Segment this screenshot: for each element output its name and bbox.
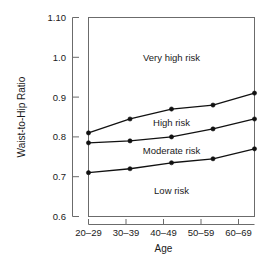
data-point-s3-3 bbox=[169, 161, 173, 165]
data-point-s3-5 bbox=[252, 147, 256, 151]
series-group bbox=[86, 91, 256, 175]
x-tick-label-40-49: 40–49 bbox=[150, 227, 176, 238]
y-tick-label-060: 0.6 bbox=[53, 211, 66, 222]
data-point-s2-2 bbox=[128, 139, 132, 143]
x-axis-title: Age bbox=[155, 243, 173, 254]
data-point-s3-2 bbox=[128, 167, 132, 171]
x-tick-label-50-59: 50–59 bbox=[188, 227, 214, 238]
y-tick-label-090: 0.9 bbox=[53, 92, 66, 103]
x-tick-label-60-69: 60–69 bbox=[225, 227, 251, 238]
data-point-s1-1 bbox=[86, 131, 90, 135]
region-label-3: Moderate risk bbox=[143, 145, 201, 156]
region-label-4: Low risk bbox=[154, 185, 189, 196]
data-point-s2-3 bbox=[169, 135, 173, 139]
region-label-1: Very high risk bbox=[143, 52, 200, 63]
y-tick-label-080: 0.8 bbox=[53, 131, 66, 142]
waist-to-hip-ratio-risk-chart: 1.10 1.0 0.9 0.8 0.7 0.6 Waist-to-Hip Ra… bbox=[0, 0, 275, 259]
y-tick-label-110: 1.10 bbox=[48, 12, 67, 23]
data-point-s2-4 bbox=[211, 127, 215, 131]
y-tick-label-100: 1.0 bbox=[53, 52, 66, 63]
data-point-s1-4 bbox=[211, 103, 215, 107]
data-point-s2-1 bbox=[86, 141, 90, 145]
region-label-2: High risk bbox=[153, 117, 190, 128]
chart-screenshot: 1.10 1.0 0.9 0.8 0.7 0.6 Waist-to-Hip Ra… bbox=[0, 0, 275, 259]
data-point-s3-1 bbox=[86, 171, 90, 175]
data-point-s3-4 bbox=[211, 157, 215, 161]
x-tick-label-20-29: 20–29 bbox=[75, 227, 101, 238]
y-axis-title: Waist-to-Hip Ratio bbox=[16, 76, 27, 157]
region-label-group: Very high riskHigh riskModerate riskLow … bbox=[143, 52, 201, 196]
data-point-s1-3 bbox=[169, 107, 173, 111]
y-tick-label-070: 0.7 bbox=[53, 171, 66, 182]
data-point-s1-5 bbox=[252, 91, 256, 95]
data-point-s1-2 bbox=[128, 117, 132, 121]
data-point-s2-5 bbox=[252, 117, 256, 121]
x-tick-label-30-39: 30–39 bbox=[113, 227, 139, 238]
